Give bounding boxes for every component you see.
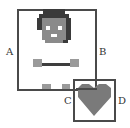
left-foot [42, 84, 51, 89]
face [45, 40, 63, 43]
label-b: B [99, 47, 106, 57]
left-arm [33, 59, 42, 67]
body-bar [42, 63, 70, 66]
pixel-character-head [37, 9, 73, 49]
right-arm [70, 59, 79, 67]
label-d: D [118, 96, 126, 106]
label-c: C [64, 96, 72, 106]
right-foot [62, 84, 70, 89]
right-eye [58, 26, 62, 30]
overlap-line [76, 88, 97, 90]
left-eye [46, 26, 50, 30]
label-a: A [6, 47, 13, 57]
mouth [51, 34, 57, 37]
